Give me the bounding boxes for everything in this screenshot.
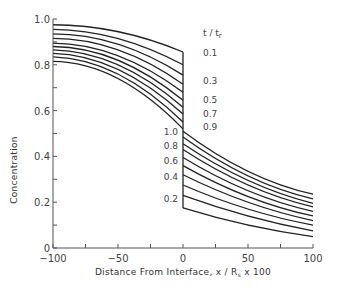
y-tick-label: 0.6 [34,106,50,117]
tick-labels: −100−5005010000.20.40.60.81.0 [34,14,322,264]
curve-right-0.8 [183,144,313,204]
concentration-chart: −100−5005010000.20.40.60.81.0 t / tr 0.1… [0,0,339,289]
x-tick-label: 100 [303,253,322,264]
y-axis-title: Concentration [9,136,19,204]
curves [53,25,313,237]
legend-title: t / tr [203,28,222,40]
curve-label-0.2: 0.2 [164,194,178,204]
y-tick-label: 0.2 [34,197,50,208]
curve-left-0.9 [53,57,183,122]
y-tick-label: 0.8 [34,60,50,71]
curve-label-0.6: 0.6 [164,156,179,166]
curve-label-0.4: 0.4 [164,172,179,182]
curve-label-0.3: 0.3 [203,76,217,86]
x-tick-label: 0 [180,253,186,264]
curve-label-0.7: 0.7 [203,109,217,119]
curve-label-0.9: 0.9 [203,122,218,132]
curve-labels: 0.10.30.50.70.91.00.80.60.40.2 [164,48,218,204]
x-tick-label: −100 [39,253,66,264]
y-tick-label: 0 [44,243,50,254]
curve-right-0.1 [183,208,313,237]
x-tick-label: 50 [242,253,255,264]
x-tick-label: −50 [107,253,128,264]
curve-label-0.8: 0.8 [164,141,179,151]
curve-left-0.4 [53,38,183,84]
curve-label-1.0: 1.0 [164,127,179,137]
curve-label-0.5: 0.5 [203,95,217,105]
curve-label-0.1: 0.1 [203,48,217,58]
y-tick-label: 0.4 [34,151,50,162]
x-axis-title: Distance From Interface, x / Rs x 100 [95,267,271,278]
y-tick-label: 1.0 [34,14,50,25]
